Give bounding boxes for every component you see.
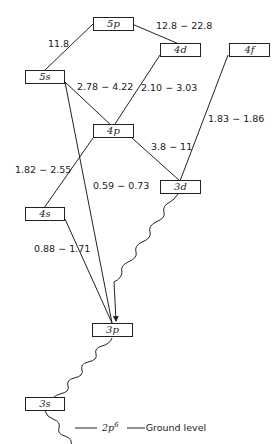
label-4s-3p: 0.88 − 1.71 <box>34 243 90 254</box>
label-4s-4p: 1.82 − 2.55 <box>15 164 71 175</box>
level-5p: 5p <box>93 17 134 31</box>
level-3d: 3d <box>160 180 201 194</box>
transition-lines <box>0 0 280 444</box>
label-4p-4d: 2.10 − 3.03 <box>141 82 197 93</box>
label-5s-3p: 0.59 − 0.73 <box>93 180 149 191</box>
level-4d: 4d <box>160 43 201 57</box>
ground-label: Ground level <box>146 422 207 433</box>
label-5p-4d: 12.8 − 22.8 <box>156 20 212 31</box>
label-5s-4p: 2.78 − 4.22 <box>77 81 133 92</box>
level-4s: 4s <box>25 207 65 221</box>
ground-level: 2p6 Ground level <box>102 421 206 433</box>
level-3s: 3s <box>25 397 65 411</box>
level-5s: 5s <box>25 70 65 84</box>
level-4p: 4p <box>93 124 134 138</box>
level-3p: 3p <box>92 323 133 337</box>
label-5s-5p: 11.8 <box>48 38 69 49</box>
label-3d-4f: 1.83 − 1.86 <box>208 113 264 124</box>
level-4f: 4f <box>229 43 270 57</box>
ground-config: 2p6 <box>102 422 119 433</box>
label-4p-3d: 3.8 − 11 <box>151 141 192 152</box>
